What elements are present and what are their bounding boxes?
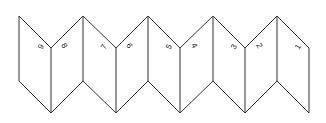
page-label-5: 5 bbox=[164, 42, 174, 51]
page-labels: 9 8 7 6 5 4 3 2 1 bbox=[36, 42, 303, 52]
page-label-2: 2 bbox=[254, 42, 264, 51]
fold-lines bbox=[19, 16, 309, 113]
page-label-6: 6 bbox=[124, 42, 134, 51]
page-label-1: 1 bbox=[293, 42, 303, 51]
bottom-edge bbox=[19, 81, 309, 113]
page-label-9: 9 bbox=[36, 42, 46, 51]
page-label-8: 8 bbox=[59, 42, 69, 51]
page-label-7: 7 bbox=[99, 42, 109, 51]
accordion-fold-diagram: 9 8 7 6 5 4 3 2 1 bbox=[0, 0, 326, 123]
page-label-4: 4 bbox=[189, 42, 199, 51]
page-label-3: 3 bbox=[229, 42, 239, 51]
